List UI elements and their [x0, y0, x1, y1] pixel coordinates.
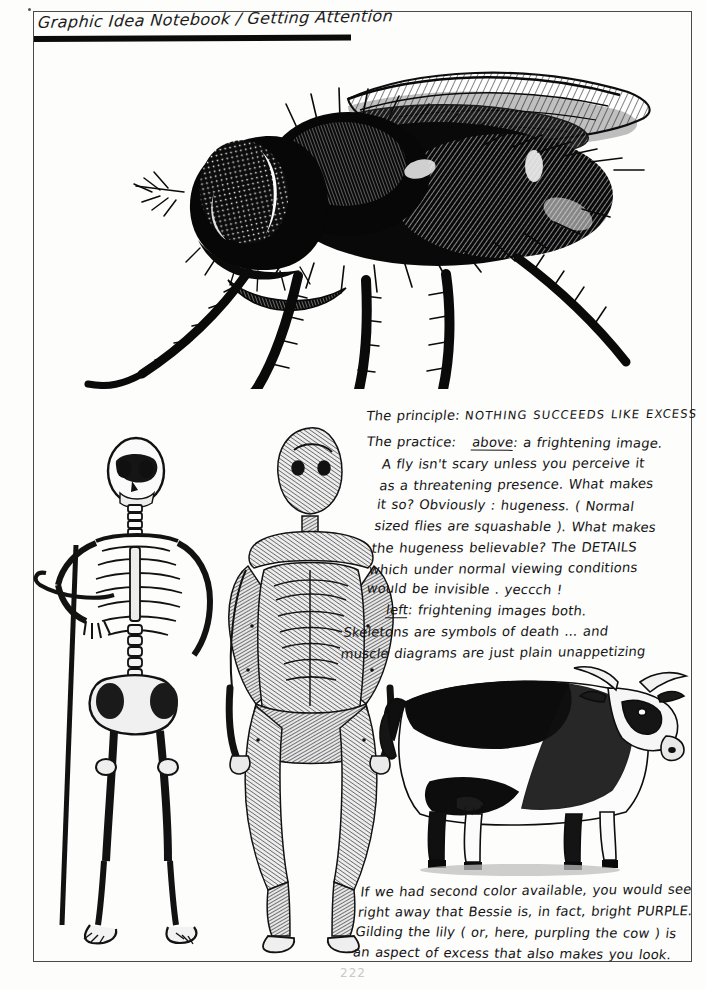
practice-line-1: A fly isn't scary unless you perceive it: [363, 452, 700, 474]
principle-statement: NOTHING SUCCEEDS LIKE EXCESS: [464, 407, 698, 423]
left-line-1: Skeletons are symbols of death ... and: [342, 620, 679, 642]
practice-label: The practice:: [366, 434, 457, 450]
left-keyword: left: [385, 602, 409, 618]
practice-line-7: would be invisible . yeccch !: [347, 578, 683, 602]
left-line-2: muscle diagrams are just plain unappetiz…: [340, 641, 677, 665]
practice-line-2: as a threatening presence. What makes: [360, 473, 697, 497]
cow-engraving: [370, 662, 690, 877]
bottom-line-1: right away that Bessie is, in fact, brig…: [357, 900, 698, 922]
bottom-line-3: an aspect of excess that also makes you …: [352, 942, 692, 966]
registration-dot: [28, 8, 31, 11]
bottom-line-0: If we had second color available, you wo…: [359, 879, 700, 903]
left-line-0-rest: : frightening images both.: [407, 602, 587, 618]
practice-line-0-rest: : a frightening image.: [512, 435, 663, 451]
practice-note: The practice: above: a frightening image…: [340, 432, 702, 663]
principle-label: The principle:: [366, 408, 461, 424]
giant-fly-engraving: [48, 44, 668, 389]
practice-line-3: it so? Obviously : hugeness. ( Normal: [358, 494, 694, 518]
practice-line-6: which under normal viewing conditions: [350, 557, 687, 581]
practice-line-4: sized flies are squashable ). What makes: [355, 515, 691, 538]
practice-line-5: the hugeness believable? The DETAILS: [352, 536, 689, 558]
bottom-note: If we had second color available, you wo…: [352, 880, 700, 964]
above-keyword: above: [471, 435, 514, 451]
bottom-line-2: Gilding the lily ( or, here, purpling th…: [354, 921, 694, 944]
fly-legs: [88, 255, 626, 389]
notebook-page: Graphic Idea Notebook / Getting Attentio…: [0, 0, 706, 989]
page-number: 222: [0, 966, 706, 980]
fly-antenna: [134, 172, 184, 216]
human-skeleton-engraving: [18, 425, 233, 950]
principle-note: The principle: NOTHING SUCCEEDS LIKE EXC…: [365, 404, 698, 426]
